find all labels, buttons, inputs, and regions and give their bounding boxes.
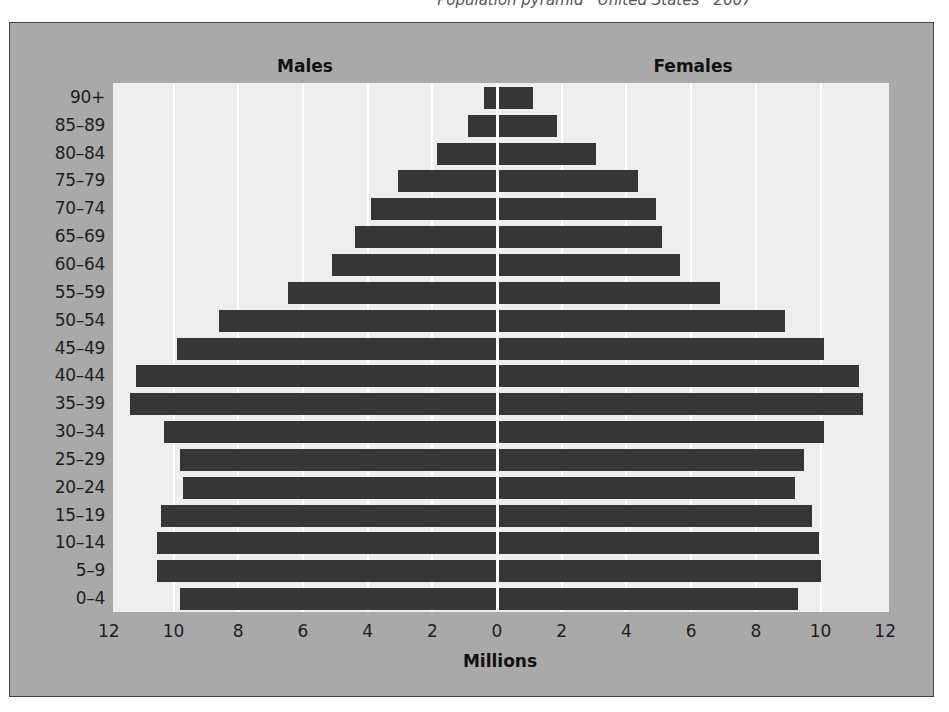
- male-bar: [398, 170, 497, 192]
- x-tick-label: 8: [218, 621, 258, 641]
- female-bar: [497, 115, 557, 137]
- x-tick-label: 12: [865, 621, 905, 641]
- age-group-label: 60–64: [5, 253, 105, 275]
- top-caption-fragment: Population pyramid · United States · 200…: [0, 0, 949, 9]
- male-bar: [136, 365, 497, 387]
- x-tick-label: 2: [542, 621, 582, 641]
- female-bar: [497, 365, 859, 387]
- x-tick-label: 10: [801, 621, 841, 641]
- age-group-label: 80–84: [5, 142, 105, 164]
- age-group-label: 45–49: [5, 337, 105, 359]
- female-bar: [497, 143, 596, 165]
- x-tick-label: 6: [671, 621, 711, 641]
- x-tick-label: 10: [154, 621, 194, 641]
- males-header: Males: [225, 56, 385, 76]
- age-group-label: 70–74: [5, 197, 105, 219]
- male-bar: [437, 143, 497, 165]
- female-bar: [497, 393, 863, 415]
- age-group-label: 40–44: [5, 364, 105, 386]
- age-group-label: 15–19: [5, 504, 105, 526]
- age-group-label: 55–59: [5, 281, 105, 303]
- male-bar: [219, 310, 497, 332]
- male-bar: [288, 282, 497, 304]
- age-group-label: 10–14: [5, 531, 105, 553]
- x-axis-title: Millions: [420, 651, 580, 671]
- x-tick-label: 2: [412, 621, 452, 641]
- male-bar: [332, 254, 497, 276]
- age-group-label: 50–54: [5, 309, 105, 331]
- female-bar: [497, 310, 785, 332]
- male-bar: [164, 421, 497, 443]
- female-bar: [497, 226, 662, 248]
- age-group-label: 75–79: [5, 169, 105, 191]
- male-bar: [180, 588, 497, 610]
- age-group-label: 5–9: [5, 559, 105, 581]
- male-bar: [183, 477, 497, 499]
- female-bar: [497, 338, 824, 360]
- females-header: Females: [613, 56, 773, 76]
- female-bar: [497, 588, 798, 610]
- male-bar: [157, 560, 497, 582]
- female-bar: [497, 198, 656, 220]
- male-bar: [355, 226, 497, 248]
- male-bar: [130, 393, 497, 415]
- male-bar: [177, 338, 497, 360]
- female-bar: [497, 421, 824, 443]
- age-group-label: 30–34: [5, 420, 105, 442]
- age-group-label: 25–29: [5, 448, 105, 470]
- female-bar: [497, 505, 812, 527]
- x-tick-label: 4: [348, 621, 388, 641]
- male-bar: [180, 449, 497, 471]
- age-group-label: 65–69: [5, 225, 105, 247]
- male-bar: [468, 115, 497, 137]
- age-group-label: 90+: [5, 86, 105, 108]
- female-bar: [497, 560, 821, 582]
- center-axis-line: [496, 83, 499, 612]
- x-tick-label: 4: [606, 621, 646, 641]
- x-tick-label: 12: [89, 621, 129, 641]
- x-tick-label: 0: [477, 621, 517, 641]
- female-bar: [497, 170, 638, 192]
- female-bar: [497, 254, 680, 276]
- x-tick-label: 8: [736, 621, 776, 641]
- age-group-label: 0–4: [5, 587, 105, 609]
- age-group-label: 85–89: [5, 114, 105, 136]
- male-bar: [161, 505, 497, 527]
- female-bar: [497, 449, 804, 471]
- age-group-label: 20–24: [5, 476, 105, 498]
- x-tick-label: 6: [283, 621, 323, 641]
- female-bar: [497, 282, 720, 304]
- female-bar: [497, 477, 795, 499]
- male-bar: [371, 198, 497, 220]
- female-bar: [497, 532, 819, 554]
- female-bar: [497, 87, 533, 109]
- plot-area: [113, 83, 889, 612]
- male-bar: [157, 532, 497, 554]
- age-group-label: 35–39: [5, 392, 105, 414]
